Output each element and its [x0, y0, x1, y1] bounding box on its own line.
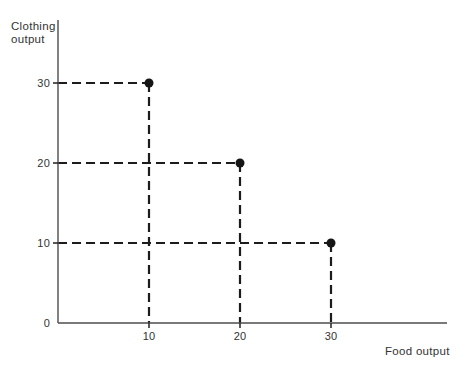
- origin-label: 0: [44, 317, 50, 329]
- y-axis-title: Clothing output: [11, 20, 56, 46]
- y-axis-title-line2: output: [11, 33, 56, 46]
- chart: 1020300102030 Clothing output Food outpu…: [0, 0, 469, 380]
- y-tick-label: 20: [37, 157, 50, 169]
- x-tick-label: 20: [234, 330, 247, 342]
- y-tick-label: 10: [37, 237, 50, 249]
- x-tick-label: 10: [143, 330, 156, 342]
- x-tick-label: 30: [325, 330, 338, 342]
- chart-canvas: 1020300102030: [0, 0, 469, 380]
- y-axis-title-line1: Clothing: [11, 20, 56, 33]
- data-point: [145, 79, 154, 88]
- data-point: [327, 239, 336, 248]
- data-point: [236, 159, 245, 168]
- y-tick-label: 30: [37, 77, 50, 89]
- x-axis-title: Food output: [385, 345, 450, 358]
